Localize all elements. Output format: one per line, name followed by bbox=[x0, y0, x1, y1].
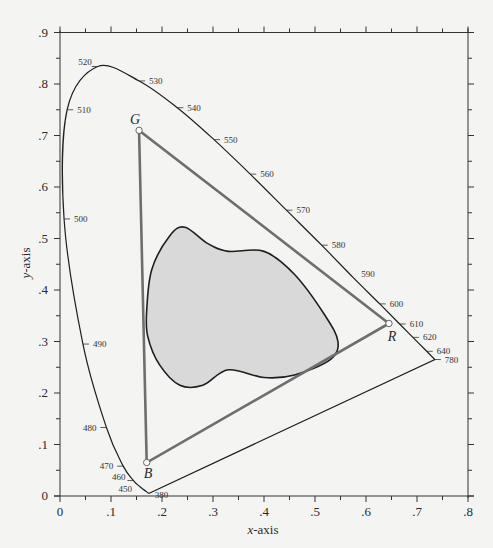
y-axis-title: y-axis bbox=[18, 247, 33, 280]
x-tick-label: .8 bbox=[463, 504, 473, 519]
x-tick-label: .1 bbox=[106, 504, 116, 519]
plot-area bbox=[62, 65, 434, 493]
wavelength-label-600: 600 bbox=[390, 299, 404, 309]
chromaticity-chart: 0.1.2.3.4.5.6.7.80.1.2.3.4.5.6.7.8.9x-ax… bbox=[0, 0, 493, 548]
vertex-label-g: G bbox=[130, 112, 140, 127]
x-tick-label: .6 bbox=[361, 504, 371, 519]
wavelength-label-560: 560 bbox=[260, 169, 274, 179]
y-tick-label: .3 bbox=[38, 334, 48, 349]
x-axis-title: x-axis bbox=[246, 522, 278, 537]
wavelength-label-460: 460 bbox=[112, 472, 126, 482]
y-tick-label: .2 bbox=[38, 385, 48, 400]
y-tick-label: .7 bbox=[38, 128, 48, 143]
primary-r-marker bbox=[386, 320, 392, 326]
wavelength-label-470: 470 bbox=[100, 461, 114, 471]
wavelength-label-590: 590 bbox=[361, 269, 375, 279]
wavelength-label-500: 500 bbox=[74, 214, 88, 224]
y-tick-label: .6 bbox=[38, 179, 48, 194]
wavelength-label-780: 780 bbox=[445, 355, 459, 365]
y-tick-label: .8 bbox=[38, 76, 48, 91]
wavelength-label-570: 570 bbox=[296, 205, 310, 215]
y-tick-label: .1 bbox=[38, 437, 48, 452]
wavelength-label-540: 540 bbox=[187, 103, 201, 113]
x-tick-label: .7 bbox=[412, 504, 422, 519]
x-tick-label: .3 bbox=[208, 504, 218, 519]
wavelength-label-450: 450 bbox=[119, 484, 133, 494]
y-tick-label: .5 bbox=[38, 231, 48, 246]
vertex-label-r: R bbox=[387, 329, 397, 344]
wavelength-label-620: 620 bbox=[423, 332, 437, 342]
vertex-label-b: B bbox=[144, 466, 153, 481]
wavelength-label-520: 520 bbox=[78, 57, 92, 67]
wavelength-label-490: 490 bbox=[93, 339, 107, 349]
wavelength-label-510: 510 bbox=[77, 105, 91, 115]
wavelength-label-530: 530 bbox=[149, 76, 163, 86]
wavelength-label-550: 550 bbox=[224, 135, 238, 145]
y-tick-label: .4 bbox=[38, 282, 48, 297]
device-gamut-region bbox=[146, 227, 338, 388]
primary-b-marker bbox=[144, 459, 150, 465]
y-tick-label: 0 bbox=[42, 488, 49, 503]
x-tick-label: .5 bbox=[310, 504, 320, 519]
x-tick-label: .4 bbox=[259, 504, 269, 519]
y-tick-label: .9 bbox=[38, 25, 48, 40]
wavelength-label-580: 580 bbox=[332, 240, 346, 250]
wavelength-label-610: 610 bbox=[410, 319, 424, 329]
wavelength-label-480: 480 bbox=[83, 423, 97, 433]
x-tick-label: 0 bbox=[57, 504, 64, 519]
wavelength-label-380: 380 bbox=[155, 490, 169, 500]
x-tick-label: .2 bbox=[157, 504, 167, 519]
primary-g-marker bbox=[136, 127, 142, 133]
